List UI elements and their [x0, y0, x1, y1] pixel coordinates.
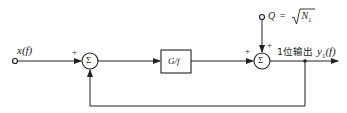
- feedback-line: [90, 61, 305, 106]
- summer1-sigma: Σ: [86, 56, 91, 65]
- output-caption: 1位输出: [277, 47, 313, 57]
- summer2-left-plus-sign: +: [245, 47, 250, 56]
- block-label: G/f: [168, 57, 180, 66]
- summer1-plus-sign: +: [72, 48, 77, 57]
- input-terminal-icon: [13, 59, 18, 64]
- noise-terminal-icon: [260, 15, 265, 20]
- feedback-diagram: x(f) + Σ G/f + + Σ Q = N1 1位输出 y1(f): [0, 0, 347, 113]
- output-label-arg: (f): [325, 45, 335, 57]
- noise-label-sub: 1: [308, 16, 312, 24]
- noise-label: Q = N1: [268, 11, 312, 24]
- input-label: x(f): [17, 45, 32, 56]
- summer2-sigma: Σ: [258, 56, 263, 65]
- noise-label-eq: =: [280, 10, 286, 21]
- summer2-top-plus-sign: +: [267, 41, 272, 50]
- noise-label-q: Q: [268, 10, 275, 21]
- output-label: y1(f): [317, 46, 336, 60]
